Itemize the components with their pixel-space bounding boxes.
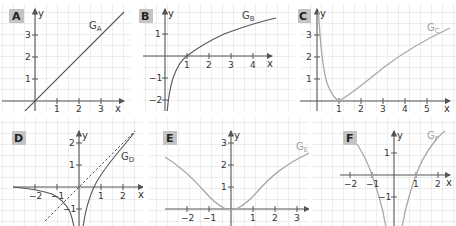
x-tick-label: 1 [184,60,190,70]
y-tick-label: 3 [306,30,312,40]
x-tick-label: 2 [272,213,278,223]
panel-label: D [14,132,23,145]
panel-label-b: B [141,10,149,23]
y-tick-label: 3 [221,138,227,148]
x-tick-label: −1 [51,191,64,201]
x-axis-label: x [138,189,144,200]
panel-a: A y x 1 2 3 1 2 3 GA [0,3,131,114]
y-tick-label: 2 [25,52,31,62]
y-axis-label: y [82,130,88,141]
x-tick-label: 5 [424,104,430,114]
panel-c: C y x 1 2 3 4 5 1 2 3 GC [298,3,456,114]
grid [300,3,456,111]
y-tick-label: −2 [149,95,162,105]
x-tick-label: 3 [294,213,300,223]
x-tick-label: −2 [344,179,357,189]
x-tick-label: 2 [76,104,82,114]
y-tick-label: 2 [69,138,75,148]
x-tick-label: 2 [435,179,441,189]
y-tick-label: 1 [69,160,75,170]
x-tick-label: −2 [181,213,194,223]
function-graphs-figure: A y x 1 2 3 1 2 3 GA B y x 1 2 3 4 1 −1 … [0,0,456,226]
panel-label: C [299,10,307,23]
panel-label: F [346,132,354,145]
x-tick-label: 3 [228,60,234,70]
x-tick-label: 1 [250,213,256,223]
x-tick-label: 3 [380,104,386,114]
y-tick-label: 1 [155,29,161,39]
panel-e: E y −2 −1 1 2 3 3 2 1 GE [148,118,309,226]
x-tick-label: 1 [54,104,60,114]
x-axis-label: x [267,58,273,69]
x-tick-label: −1 [203,213,216,223]
y-tick-label: 1 [25,74,31,84]
y-axis-label: y [397,130,403,141]
x-tick-label: −1 [366,179,379,189]
x-tick-label: 1 [336,104,342,114]
x-tick-label: 4 [402,104,408,114]
y-axis-label: y [234,130,240,141]
x-tick-label: 4 [250,60,256,70]
y-axis-label: y [38,8,44,19]
x-axis-label: x [446,177,452,188]
x-axis-label: x [115,103,121,114]
x-tick-label: 3 [98,104,104,114]
x-axis-label: x [444,103,450,114]
y-tick-label: 2 [306,52,312,62]
y-tick-label: 1 [384,148,390,158]
x-tick-label: 2 [206,60,212,70]
y-tick-label: −1 [149,73,162,83]
panel-f: F y x −2 −1 1 2 1 −1 GF [312,118,456,226]
y-tick-label: 2 [221,160,227,170]
x-tick-label: 1 [98,191,104,201]
x-tick-label: 2 [120,191,126,201]
panel-d: D y x −2 −1 1 2 2 1 −1 GD [0,118,144,226]
panel-label: A [12,10,21,23]
panel-b: B y x 1 2 3 4 1 −1 −2 GB [143,3,295,112]
y-tick-label: 1 [306,74,312,84]
y-tick-label: 3 [25,30,31,40]
x-tick-label: 1 [413,179,419,189]
x-tick-label: −2 [29,191,42,201]
y-tick-label: −1 [378,192,391,202]
panel-label: E [166,132,174,145]
y-tick-label: −1 [63,204,76,214]
y-tick-label: 1 [221,182,227,192]
y-axis-label: y [168,8,174,19]
y-axis-label: y [320,8,326,19]
x-tick-label: 2 [358,104,364,114]
